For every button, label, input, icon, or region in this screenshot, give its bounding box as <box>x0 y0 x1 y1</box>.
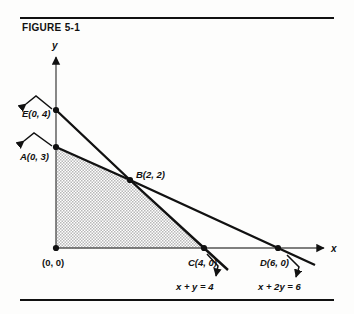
label-point-a: A(0, 3) <box>19 151 49 162</box>
label-point-d: D(6, 0) <box>260 257 289 268</box>
feasible-region-shading <box>56 147 204 248</box>
label-equation-2: x + 2y = 6 <box>257 281 302 292</box>
figure-container: FIGURE 5-1 <box>0 0 354 314</box>
label-point-b: B(2, 2) <box>136 169 165 180</box>
y-axis-label: y <box>51 40 58 51</box>
label-equation-1: x + y = 4 <box>175 281 214 292</box>
leader-line-a <box>24 133 52 146</box>
label-origin: (0, 0) <box>42 257 64 268</box>
graph-plot: y x E(0, 4) A(0, 3) B(2, 2) (0, 0) C(4, … <box>0 0 354 314</box>
label-point-e: E(0, 4) <box>22 108 51 119</box>
figure-rule-bottom <box>20 299 334 301</box>
point-e <box>53 107 59 113</box>
point-d <box>275 245 281 251</box>
point-origin <box>53 245 59 251</box>
point-a <box>53 144 59 150</box>
point-b <box>127 177 133 183</box>
x-axis-label: x <box>330 243 337 254</box>
point-c <box>201 245 207 251</box>
label-point-c: C(4, 0) <box>188 257 217 268</box>
